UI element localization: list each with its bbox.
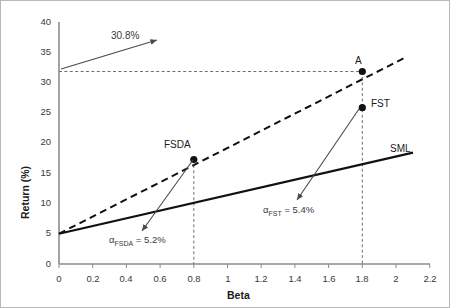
- annotation-alpha-fst: αFST = 5.4%: [263, 204, 314, 217]
- x-tick-label-1: 1: [218, 273, 238, 284]
- y-tick-label-20: 20: [27, 136, 51, 147]
- annotation-arrow-return: [61, 40, 157, 69]
- x-tick-label-16: 1.6: [317, 273, 341, 284]
- series-line-sml: [59, 153, 413, 234]
- alpha-subscript-fst: FST: [269, 210, 282, 217]
- chart-plot-area: [1, 1, 450, 308]
- annotation-return-value: 30.8%: [111, 30, 139, 41]
- alpha-subscript-fsda: FSDA: [115, 240, 134, 247]
- y-tick-label-40: 40: [27, 16, 51, 27]
- annotation-arrow-alpha-fst: [297, 109, 359, 200]
- chart-figure: 40 35 30 25 20 15 10 5 0 0 0.2 0.4 0.6 0…: [0, 0, 450, 308]
- x-axis-title: Beta: [227, 289, 250, 301]
- series-line-portfolio: [59, 58, 404, 234]
- x-tick-label-14: 1.4: [283, 273, 307, 284]
- y-tick-label-35: 35: [27, 46, 51, 57]
- x-tick-label-22: 2.2: [418, 273, 442, 284]
- data-point-fst: [359, 104, 366, 111]
- x-tick-label-12: 1.2: [249, 273, 273, 284]
- data-label-a: A: [355, 55, 362, 66]
- x-tick-label-08: 0.8: [182, 273, 206, 284]
- y-tick-label-25: 25: [27, 106, 51, 117]
- y-axis-title-wrap: Return (%): [5, 101, 21, 221]
- y-axis-title: Return (%): [19, 166, 31, 219]
- y-tick-label-30: 30: [27, 76, 51, 87]
- annotation-arrow-alpha-fsda: [142, 160, 193, 231]
- alpha-value-fsda: = 5.2%: [136, 234, 166, 245]
- data-point-a: [359, 68, 366, 75]
- y-tick-label-5: 5: [27, 227, 51, 238]
- annotation-alpha-fsda: αFSDA = 5.2%: [109, 234, 166, 247]
- x-tick-label-18: 1.8: [350, 273, 374, 284]
- data-label-fsda: FSDA: [164, 139, 191, 150]
- alpha-value-fst: = 5.4%: [284, 204, 314, 215]
- data-label-fst: FST: [371, 98, 390, 109]
- x-tick-label-0: 0: [49, 273, 69, 284]
- x-tick-label-2: 2: [386, 273, 406, 284]
- y-tick-label-0: 0: [27, 258, 51, 269]
- x-tick-label-04: 0.4: [114, 273, 138, 284]
- data-label-sml: SML: [390, 143, 411, 154]
- x-tick-label-02: 0.2: [81, 273, 105, 284]
- x-tick-label-06: 0.6: [148, 273, 172, 284]
